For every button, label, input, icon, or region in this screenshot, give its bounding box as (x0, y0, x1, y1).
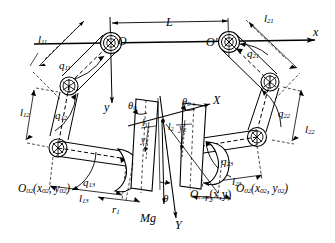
label-O02-right: O02(x02, y02) (236, 183, 288, 195)
label-q13: q13 (83, 177, 95, 189)
label-l13: l13 (79, 193, 88, 205)
label-axis-X-body: X (213, 94, 220, 106)
label-q12: q12 (55, 110, 67, 122)
label-axis-x: x (313, 26, 318, 38)
label-q11: q11 (59, 60, 70, 72)
label-r1: r1 (112, 204, 120, 216)
label-q23: q23 (221, 156, 233, 168)
label-l11: l11 (38, 34, 47, 46)
label-l12: l12 (20, 107, 29, 119)
label-theta0-right: θ0 (182, 97, 190, 108)
label-q22: q22 (278, 108, 290, 120)
label-r2: r2 (205, 192, 213, 204)
label-y2: y2 (179, 124, 186, 134)
left-leg (26, 21, 158, 202)
label-l1: l1 (142, 119, 147, 129)
label-theta0-left: θ0 (128, 101, 136, 112)
label-axis-y: y (104, 101, 109, 113)
label-hip-O-left: O (118, 35, 127, 47)
label-O02-left: O02(x02, y02) (18, 183, 70, 195)
label-L: L (166, 16, 173, 28)
label-l21: l21 (264, 13, 273, 25)
label-Mg: Mg (140, 212, 156, 224)
label-axis-Y-body: Y (175, 219, 182, 231)
label-l2: l2 (168, 123, 173, 133)
figure-canvas: l11 q11 l12 q12 q13 l13 r1 O02(x02, y02)… (0, 0, 335, 243)
label-theta: θ (163, 193, 168, 204)
label-hip-O-right: O′ (206, 36, 217, 48)
label-y1: y1 (141, 136, 148, 146)
left-foot-rocker (98, 99, 158, 202)
label-q21: q21 (247, 48, 259, 60)
right-foot-rocker (176, 103, 231, 200)
label-l22: l22 (305, 124, 314, 136)
right-link-21 (222, 20, 300, 99)
